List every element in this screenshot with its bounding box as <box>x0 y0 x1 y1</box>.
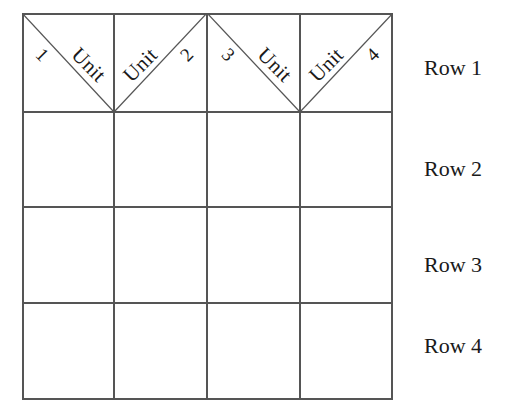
grid-lines <box>22 13 393 400</box>
row-label-2: Row 2 <box>424 158 482 180</box>
cell-diagonal-1 <box>22 13 114 112</box>
row-label-3: Row 3 <box>424 254 482 276</box>
grid-container: Unit 1 Unit 2 Unit 3 Unit 4 <box>22 13 393 400</box>
unit-row-grid-figure: Unit 1 Unit 2 Unit 3 Unit 4 Row 1 Row 2 … <box>0 0 511 416</box>
cell-diagonal-4 <box>300 13 393 112</box>
row-label-4: Row 4 <box>424 335 482 357</box>
row-label-1: Row 1 <box>424 57 482 79</box>
cell-diagonal-3 <box>207 13 300 112</box>
cell-diagonal-2 <box>114 13 207 112</box>
